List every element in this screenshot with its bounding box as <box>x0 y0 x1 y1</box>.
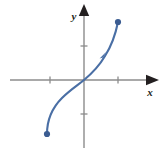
curve-endpoint-left-marker <box>44 131 50 137</box>
y-axis-label: y <box>70 10 77 22</box>
x-axis-arrowhead <box>146 75 159 85</box>
curve-endpoint-right-marker <box>115 19 121 25</box>
graph-figure: y x <box>0 0 165 157</box>
x-axis-label: x <box>146 86 153 98</box>
y-axis-arrowhead <box>79 4 89 16</box>
coordinate-plane: y x <box>0 0 165 157</box>
curve-path <box>47 22 118 134</box>
